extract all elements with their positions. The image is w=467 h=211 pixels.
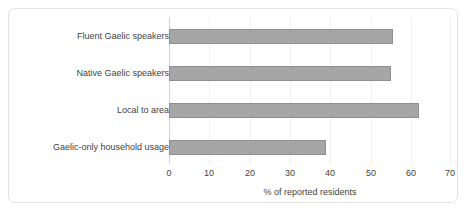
- plot-area: [169, 17, 451, 164]
- category-label-fluent-gaelic-speakers: Fluent Gaelic speakers: [19, 29, 169, 44]
- gridline-70: [450, 17, 451, 164]
- x-axis-tick-labels: 0 10 20 30 40 50 60 70: [169, 168, 451, 182]
- category-axis-labels: Fluent Gaelic speakers Native Gaelic spe…: [19, 17, 169, 164]
- category-label-native-gaelic-speakers: Native Gaelic speakers: [19, 66, 169, 81]
- x-tick-40: 40: [310, 168, 350, 178]
- x-tick-20: 20: [230, 168, 270, 178]
- x-tick-50: 50: [351, 168, 391, 178]
- category-label-local-to-area: Local to area: [19, 103, 169, 118]
- chart-frame: Fluent Gaelic speakers Native Gaelic spe…: [8, 8, 458, 203]
- x-tick-0: 0: [149, 168, 189, 178]
- gridline-60: [411, 17, 412, 164]
- bar-native-gaelic-speakers[interactable]: [169, 66, 391, 81]
- x-tick-60: 60: [391, 168, 431, 178]
- bar-fluent-gaelic-speakers[interactable]: [169, 29, 393, 44]
- x-tick-10: 10: [189, 168, 229, 178]
- category-label-gaelic-only-household-usage: Gaelic-only household usage: [19, 140, 169, 155]
- x-axis-title: % of reported residents: [169, 187, 451, 197]
- x-tick-70: 70: [430, 168, 467, 178]
- bar-gaelic-only-household-usage[interactable]: [169, 140, 326, 155]
- x-tick-30: 30: [270, 168, 310, 178]
- bar-local-to-area[interactable]: [169, 103, 419, 118]
